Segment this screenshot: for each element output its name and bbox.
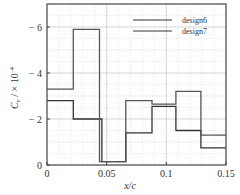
legend-label-design6: design6 <box>182 16 207 25</box>
x-tick-label: 0 <box>45 168 50 179</box>
step-chart: 00.050.10.150− 2− 4− 6 design6 design7 x… <box>0 0 240 195</box>
legend-label-design7: design7 <box>182 27 207 36</box>
series-design6 <box>47 101 226 162</box>
x-tick-label: 0.1 <box>160 168 173 179</box>
series-lines <box>47 29 226 161</box>
x-tick-label: 0.05 <box>98 168 116 179</box>
legend: design6 design7 <box>133 16 207 36</box>
series-design7 <box>47 29 226 161</box>
y-tick-label: − 6 <box>29 22 42 33</box>
svg-text:Cv / × 10−4: Cv / × 10−4 <box>9 67 22 109</box>
y-tick-label: − 4 <box>29 68 42 79</box>
y-axis-label: Cv / × 10−4 <box>9 67 22 109</box>
x-tick-label: 0.15 <box>217 168 235 179</box>
y-tick-label: 0 <box>37 160 42 171</box>
x-axis-label: x/c <box>123 180 136 191</box>
y-tick-label: − 2 <box>29 114 42 125</box>
